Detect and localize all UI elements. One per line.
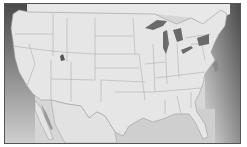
map-frame bbox=[4, 3, 241, 144]
us-map bbox=[5, 4, 240, 143]
